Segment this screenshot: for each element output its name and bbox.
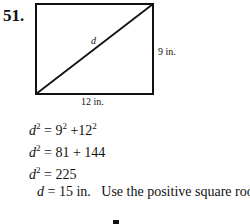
- var: d: [37, 184, 44, 199]
- var: d: [29, 123, 36, 138]
- equation-step-2: d2 = 81 + 144: [29, 145, 105, 161]
- exponent: 2: [36, 143, 41, 153]
- cropped-glyph-fragment: [113, 220, 119, 224]
- exponent: 2: [36, 121, 41, 131]
- exponent: 2: [62, 121, 67, 131]
- equation-step-3: d2 = 225: [29, 167, 76, 183]
- rhs: 15 in.: [59, 184, 91, 199]
- var: d: [29, 145, 36, 160]
- width-label: 12 in.: [81, 96, 104, 107]
- var: d: [29, 167, 36, 182]
- rhs: 81 + 144: [55, 145, 105, 160]
- problem-number: 51.: [3, 6, 24, 26]
- equation-step-1: d2 = 92 +122: [29, 123, 97, 139]
- rhs: 225: [55, 167, 76, 182]
- height-label: 9 in.: [158, 46, 176, 57]
- exponent: 2: [36, 165, 41, 175]
- term: 12: [78, 123, 92, 138]
- note: Use the positive square root.: [101, 184, 250, 199]
- equation-step-4: d = 15 in. Use the positive square root.: [37, 184, 250, 200]
- exponent: 2: [92, 121, 97, 131]
- diagonal-line: [35, 3, 154, 95]
- diagonal-label: d: [91, 35, 96, 46]
